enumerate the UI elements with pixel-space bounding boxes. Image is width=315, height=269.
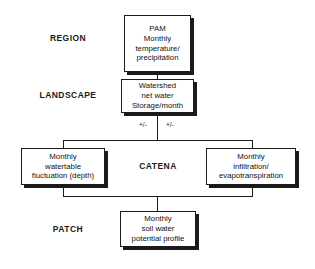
node-watershed-storage[interactable]: Watershed net water Storage/month — [121, 79, 194, 113]
connector-patch-collector-bar — [63, 196, 253, 197]
node-watertable-fluctuation-text: Monthly watertable fluctuation (depth) — [29, 152, 97, 182]
node-soil-water-potential[interactable]: Monthly soil water potential profile — [120, 211, 196, 247]
node-infiltration-evapotranspiration-text: Monthly infiltration/ evapotranspiration — [216, 152, 286, 182]
diagram-canvas: REGION LANDSCAPE CATENA PATCH +/- +/- PA… — [0, 0, 315, 269]
connector-collector-to-patch — [157, 196, 158, 211]
connector-landscape-stem — [157, 113, 158, 141]
level-label-landscape: LANDSCAPE — [28, 91, 108, 100]
level-label-catena: CATENA — [118, 162, 198, 171]
connector-catena-distribution-bar — [63, 140, 253, 141]
node-soil-water-potential-text: Monthly soil water potential profile — [129, 214, 188, 244]
connector-infiltration-to-collector — [252, 185, 253, 196]
level-label-patch: PATCH — [28, 225, 108, 234]
level-label-region: REGION — [28, 34, 108, 43]
node-infiltration-evapotranspiration[interactable]: Monthly infiltration/ evapotranspiration — [206, 148, 296, 185]
flux-label-left: +/- — [139, 122, 147, 129]
node-pam-climate[interactable]: PAM Monthly temperature/ precipitation — [124, 15, 191, 72]
node-pam-climate-text: PAM Monthly temperature/ precipitation — [132, 24, 182, 64]
connector-watertable-to-collector — [63, 185, 64, 196]
node-watershed-storage-text: Watershed net water Storage/month — [129, 81, 186, 111]
flux-label-right: +/- — [166, 122, 174, 129]
node-watertable-fluctuation[interactable]: Monthly watertable fluctuation (depth) — [21, 148, 105, 185]
